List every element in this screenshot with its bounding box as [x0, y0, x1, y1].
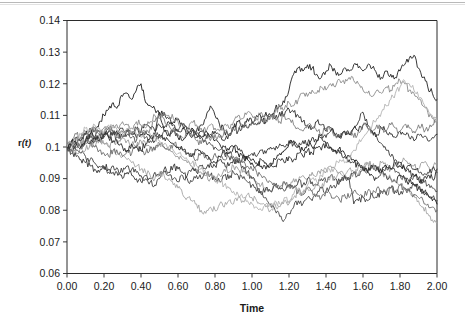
x-axis-tick-label: 1.40 — [316, 280, 337, 292]
x-axis-tick-label: 1.60 — [353, 280, 374, 292]
y-axis-tick-label: 0.08 — [40, 204, 61, 216]
x-axis-tick-label: 2.00 — [427, 280, 448, 292]
y-axis-title: r(t) — [18, 137, 31, 148]
x-axis-tick-label: 0.60 — [168, 280, 189, 292]
y-axis-tick-label: 0.1 — [45, 141, 60, 153]
x-axis-tick-label: 1.20 — [279, 280, 300, 292]
y-axis-tick-label: 0.07 — [40, 236, 61, 248]
x-axis-tick-label: 1.80 — [390, 280, 411, 292]
x-axis-tick-label: 0.00 — [57, 280, 78, 292]
y-axis-tick-label: 0.06 — [40, 267, 61, 279]
series-line — [67, 140, 437, 212]
y-axis-tick-label: 0.09 — [40, 172, 61, 184]
scan-artifact-line-second — [0, 4, 465, 5]
y-axis-tick-label: 0.14 — [40, 14, 61, 26]
x-axis-title: Time — [240, 302, 264, 314]
x-axis-tick-label: 0.80 — [205, 280, 226, 292]
series-line — [67, 113, 437, 147]
y-axis-tick-label: 0.13 — [40, 46, 61, 58]
x-axis-tick-label: 0.20 — [94, 280, 115, 292]
x-axis-tick-label: 0.40 — [131, 280, 152, 292]
series-line — [67, 132, 437, 184]
y-axis-tick-label: 0.11 — [40, 109, 60, 121]
line-chart-svg: 0.060.070.080.090.10.110.120.130.14 0.00… — [0, 0, 465, 321]
x-axis-ticks — [67, 274, 437, 278]
x-axis-tick-label: 1.00 — [242, 280, 263, 292]
series-lines — [67, 55, 437, 223]
scan-artifact-line-top — [0, 2, 465, 3]
y-axis-ticks — [63, 21, 67, 274]
y-axis-tick-label: 0.12 — [40, 78, 61, 90]
chart-figure: 0.060.070.080.090.10.110.120.130.14 0.00… — [0, 0, 465, 321]
y-axis-tick-labels: 0.060.070.080.090.10.110.120.130.14 — [40, 14, 61, 279]
x-axis-tick-labels: 0.000.200.400.600.801.001.201.401.601.80… — [57, 280, 448, 292]
